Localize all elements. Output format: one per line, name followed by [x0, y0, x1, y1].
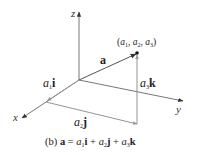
- component-i-label: a1i: [43, 77, 55, 90]
- vector-diagram: z x y (a1, a2, a3) a a1i a3k a2j (b) a =…: [0, 0, 198, 155]
- component-j-arrow: [46, 102, 137, 124]
- vector-a-arrow: [79, 54, 136, 80]
- z-axis-label: z: [71, 8, 75, 19]
- endpoint-dot: [135, 51, 139, 55]
- vector-a-label: a: [100, 54, 106, 66]
- point-label: (a1, a2, a3): [117, 38, 156, 48]
- x-axis-label: x: [13, 112, 18, 123]
- y-axis-label: y: [176, 104, 181, 115]
- component-j-label: a2j: [74, 116, 87, 129]
- y-axis: [79, 80, 183, 101]
- diagram-graphics: [0, 0, 198, 155]
- caption: (b) a = a1i + a2j + a3k: [45, 137, 136, 148]
- component-k-label: a3k: [140, 77, 156, 90]
